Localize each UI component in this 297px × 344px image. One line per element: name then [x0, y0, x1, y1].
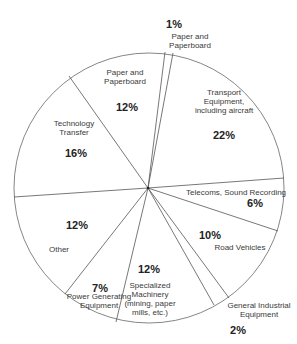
- label-specmach-pct: 12%: [134, 263, 164, 275]
- label-paper1-pct: 1%: [159, 18, 189, 30]
- label-power-name-2: Equipment: [66, 301, 132, 311]
- label-genind-pct: 2%: [223, 324, 253, 336]
- label-transport-name-3: including aircraft: [186, 106, 262, 116]
- label-genind-name-2: Equipment: [224, 310, 294, 320]
- label-paper12-pct: 12%: [112, 101, 142, 113]
- label-telecoms-name: Telecoms, Sound Recording: [186, 188, 286, 198]
- label-paper12-name-2: Paperboard: [100, 77, 150, 87]
- pie-chart: 1% Paper and Paperboard Paper and Paperb…: [0, 0, 297, 344]
- label-other-pct: 12%: [62, 219, 92, 231]
- pie-center: [147, 187, 150, 190]
- label-tech-pct: 16%: [61, 147, 91, 159]
- label-other-name: Other: [44, 245, 74, 255]
- label-road-pct: 10%: [193, 229, 227, 241]
- label-tech-name-2: Transfer: [44, 128, 104, 138]
- label-transport-pct: 22%: [207, 129, 241, 141]
- label-road-name: Road Vehicles: [208, 243, 272, 253]
- label-paper1-name-2: Paperboard: [165, 41, 215, 51]
- label-specmach-name-4: mills, etc.): [124, 308, 176, 318]
- label-telecoms-pct: 6%: [240, 197, 270, 209]
